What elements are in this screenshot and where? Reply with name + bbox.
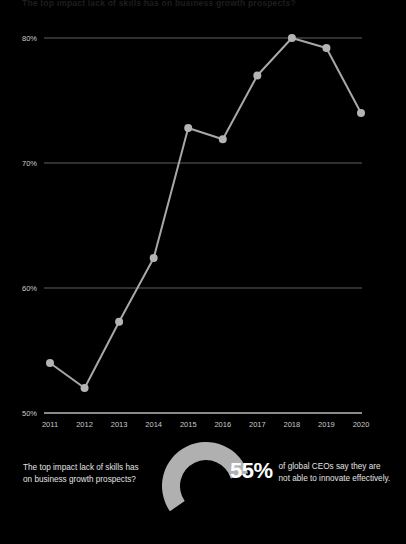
data-point-2012 [81,384,89,392]
data-point-2011 [46,359,54,367]
y-axis-labels: 50%60%70%80% [22,34,37,418]
line-chart-svg: 50%60%70%80% 201120122013201420152016201… [0,0,406,440]
stat-percentage: 55% [230,460,273,482]
x-tick-label-2017: 2017 [249,420,266,429]
data-point-2019 [322,44,330,52]
question-line-1: The top impact lack of skills has [23,462,173,474]
x-tick-label-2014: 2014 [145,420,162,429]
x-tick-label-2015: 2015 [180,420,197,429]
x-tick-label-2019: 2019 [318,420,335,429]
data-point-2014 [150,254,158,262]
x-axis-labels: 2011201220132014201520162017201820192020 [42,420,369,429]
data-point-2017 [253,72,261,80]
donut-chart-svg [160,438,252,534]
stat-description: of global CEOs say they are not able to … [279,460,391,484]
x-tick-label-2011: 2011 [42,420,58,429]
donut-chart [160,438,252,534]
stat-block: 55% of global CEOs say they are not able… [230,460,390,484]
y-tick-label: 80% [22,34,37,43]
data-point-2020 [357,109,365,117]
line-chart: 50%60%70%80% 201120122013201420152016201… [0,0,406,440]
series-markers [46,34,365,392]
bottom-panel: The top impact lack of skills has on bus… [0,440,406,544]
question-text: The top impact lack of skills has on bus… [23,462,173,486]
x-tick-label-2016: 2016 [214,420,231,429]
x-tick-label-2013: 2013 [111,420,128,429]
gridlines [44,38,362,413]
stat-desc-line-1: of global CEOs say they are [279,461,391,473]
y-tick-label: 60% [22,284,37,293]
y-tick-label: 70% [22,159,37,168]
x-tick-label-2020: 2020 [353,420,370,429]
data-point-2013 [115,318,123,326]
y-tick-label: 50% [22,409,37,418]
data-point-2018 [288,34,296,42]
x-tick-label-2012: 2012 [76,420,93,429]
data-point-2016 [219,135,227,143]
x-tick-label-2018: 2018 [284,420,301,429]
data-point-2015 [184,124,192,132]
series-line [50,38,361,388]
stat-desc-line-2: not able to innovate effectively. [279,473,391,485]
question-line-2: on business growth prospects? [23,474,173,486]
